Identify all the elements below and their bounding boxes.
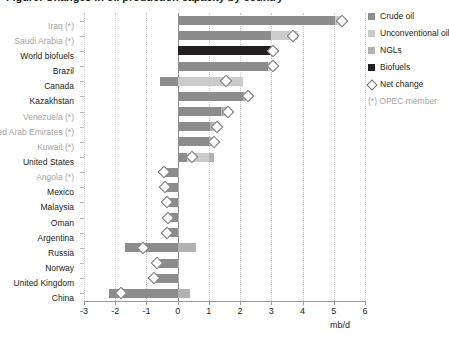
- y-axis-label-text: Russia: [48, 248, 74, 258]
- y-axis-label-text: Angola (*): [36, 172, 74, 182]
- legend-label: NGLs: [380, 42, 402, 59]
- y-axis-row-tick: [80, 248, 84, 249]
- legend-item-crude-oil[interactable]: Crude oil: [368, 8, 446, 25]
- y-axis-row-tick: [80, 293, 84, 294]
- y-axis-row-tick: [80, 157, 84, 158]
- y-axis-row-tick: [80, 278, 84, 279]
- y-axis-label-text: Argentina: [38, 233, 74, 243]
- y-axis-row-tick: [80, 202, 84, 203]
- legend-item-net-change[interactable]: Net change: [368, 76, 446, 93]
- x-axis-tick-label: 5: [331, 306, 336, 316]
- bar-row: [84, 198, 365, 207]
- bar-segment-crude-oil: [160, 77, 177, 86]
- x-axis-tick-label: -2: [111, 306, 119, 316]
- legend-item-ngls[interactable]: NGLs: [368, 42, 446, 59]
- bar-segment-crude-oil: [178, 62, 269, 71]
- chart-legend: Crude oilUnconventional oilNGLsBiofuelsN…: [368, 8, 446, 109]
- bar-row: [84, 213, 365, 222]
- y-axis-row-tick: [80, 142, 84, 143]
- legend-swatch-icon: [368, 30, 375, 37]
- y-axis-label-text: Kazakhstan: [30, 96, 74, 106]
- y-axis-row-tick: [80, 36, 84, 37]
- bar-row: [84, 168, 365, 177]
- y-axis-row-tick: [80, 263, 84, 264]
- bar-row: [84, 16, 365, 25]
- y-axis-row-tick: [80, 172, 84, 173]
- y-axis-row-tick: [80, 96, 84, 97]
- bar-segment-ngls: [178, 243, 197, 252]
- bar-segment-ngls: [178, 213, 180, 222]
- x-axis-unit-label: mb/d: [330, 320, 350, 330]
- bar-row: [84, 92, 365, 101]
- x-axis-tick: [365, 301, 366, 305]
- x-axis-line: [84, 301, 365, 302]
- y-axis-label-text: Saudi Arabia (*): [14, 36, 74, 46]
- bar-segment-biofuels: [178, 46, 273, 55]
- y-axis-row-tick: [80, 81, 84, 82]
- y-axis-row-tick: [80, 233, 84, 234]
- x-axis-tick: [146, 301, 147, 305]
- x-axis-tick-label: 1: [206, 306, 211, 316]
- y-axis-row-tick: [80, 127, 84, 128]
- bar-row: [84, 77, 365, 86]
- x-axis-tick: [209, 301, 210, 305]
- bar-row: [84, 274, 365, 283]
- y-axis-row-tick: [80, 112, 84, 113]
- x-axis-tick-label: 4: [300, 306, 305, 316]
- legend-swatch-icon: [368, 47, 375, 54]
- y-axis-row-tick: [80, 51, 84, 52]
- bar-row: [84, 62, 365, 71]
- y-axis-label-text: Brazil: [53, 66, 74, 76]
- bar-segment-ngls: [178, 274, 180, 283]
- legend-label: Net change: [380, 76, 423, 93]
- gridline: [365, 13, 367, 301]
- bar-segment-ngls: [178, 289, 190, 298]
- bar-segment-crude-oil: [178, 16, 336, 25]
- y-axis-label-text: United Arab Emirates (*): [0, 127, 74, 137]
- y-axis-label-text: Malaysia: [40, 202, 74, 212]
- x-axis-tick-label: 3: [269, 306, 274, 316]
- bar-segment-ngls: [178, 168, 180, 177]
- bar-segment-ngls: [209, 153, 214, 162]
- legend-label: Unconventional oil: [380, 25, 449, 42]
- x-axis-tick: [115, 301, 116, 305]
- legend-item-biofuels[interactable]: Biofuels: [368, 59, 446, 76]
- y-axis-label-text: Mexico: [47, 187, 74, 197]
- y-axis-label-text: China: [52, 293, 74, 303]
- chart-title: Figure: Changes in oil production capaci…: [6, 0, 336, 3]
- x-axis-tick: [303, 301, 304, 305]
- bar-row: [84, 228, 365, 237]
- y-axis-label-text: Oman: [51, 218, 74, 228]
- y-axis-label-text: United Kingdom: [14, 278, 74, 288]
- y-axis-label-text: Iraq (*): [48, 21, 74, 31]
- y-axis-label-text: World biofuels: [20, 51, 74, 61]
- bar-segment-ngls: [178, 259, 180, 268]
- bar-segment-unconventional-oil: [178, 77, 244, 86]
- net-change-diamond-icon: [366, 79, 377, 90]
- x-axis-tick-label: -1: [142, 306, 150, 316]
- y-axis-label-text: Kuwait (*): [37, 142, 74, 152]
- legend-opec-note: (*) OPEC member: [368, 93, 446, 109]
- bar-row: [84, 31, 365, 40]
- x-axis-tick: [271, 301, 272, 305]
- x-axis-tick: [334, 301, 335, 305]
- x-axis-tick: [178, 301, 179, 305]
- y-axis-row-tick: [80, 187, 84, 188]
- bar-row: [84, 289, 365, 298]
- legend-label: Biofuels: [380, 59, 410, 76]
- legend-swatch-icon: [368, 13, 375, 20]
- bar-row: [84, 107, 365, 116]
- legend-label: Crude oil: [380, 8, 414, 25]
- bar-segment-crude-oil: [178, 31, 272, 40]
- bar-segment-ngls: [178, 183, 180, 192]
- bar-segment-ngls: [178, 198, 180, 207]
- x-axis-tick-label: 2: [238, 306, 243, 316]
- y-axis-label-text: Venezuela (*): [23, 112, 74, 122]
- legend-item-unconventional-oil[interactable]: Unconventional oil: [368, 25, 446, 42]
- legend-swatch-icon: [368, 64, 375, 71]
- bar-row: [84, 122, 365, 131]
- plot-area: [84, 13, 365, 301]
- x-axis-tick: [84, 301, 85, 305]
- bar-row: [84, 243, 365, 252]
